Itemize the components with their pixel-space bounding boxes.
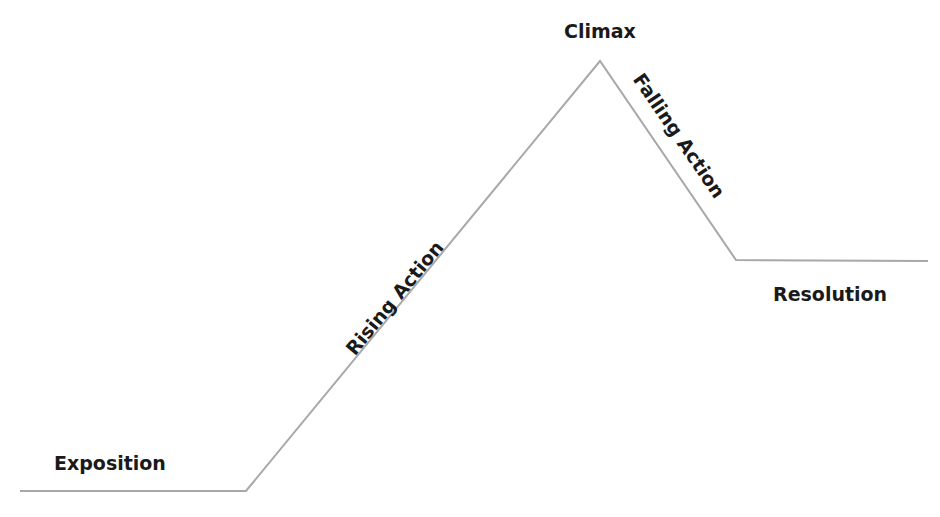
label-climax: Climax	[564, 20, 636, 42]
plot-diagram: Exposition Rising Action Climax Falling …	[0, 0, 940, 517]
label-exposition: Exposition	[54, 452, 166, 474]
label-resolution: Resolution	[773, 283, 887, 305]
plot-line-svg	[0, 0, 940, 517]
plot-line	[20, 61, 928, 491]
